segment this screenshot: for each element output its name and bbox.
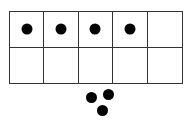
frame-cell	[148, 48, 182, 84]
frame-cell	[44, 48, 78, 84]
loose-counter-dot-icon	[86, 92, 97, 103]
counter-dot-icon	[90, 24, 101, 35]
frame-cell	[148, 12, 182, 48]
frame-cell	[10, 12, 44, 48]
frame-cell	[79, 12, 113, 48]
frame-cell	[79, 48, 113, 84]
frame-cell	[113, 12, 147, 48]
frame-cell	[10, 48, 44, 84]
counter-dot-icon	[21, 24, 32, 35]
loose-counter-dot-icon	[97, 105, 108, 116]
ten-frame	[9, 11, 183, 84]
counter-dot-icon	[56, 24, 67, 35]
counter-dot-icon	[124, 24, 135, 35]
frame-cell	[44, 12, 78, 48]
loose-counter-dot-icon	[103, 89, 114, 100]
frame-cell	[113, 48, 147, 84]
